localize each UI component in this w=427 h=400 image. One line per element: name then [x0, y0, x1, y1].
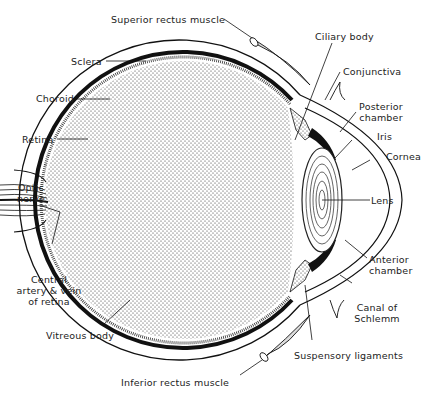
- label-optic-nerve: Optic nerve: [14, 182, 48, 204]
- label-canal-of-schlemm: Canal of Schlemm: [352, 302, 402, 324]
- label-anterior-chamber-line2: chamber: [369, 265, 413, 276]
- label-vitreous-body: Vitreous body: [46, 330, 114, 341]
- label-anterior-chamber-line1: Anterior: [369, 254, 413, 265]
- label-lens: Lens: [371, 195, 394, 206]
- label-canal-of-schlemm-line2: Schlemm: [352, 313, 402, 324]
- label-suspensory-ligaments: Suspensory ligaments: [294, 350, 403, 361]
- label-central-artery-line1: Central: [14, 274, 84, 285]
- label-ciliary-body: Ciliary body: [315, 31, 374, 42]
- label-central-artery-line3: of retina: [14, 296, 84, 307]
- label-central-artery-line2: artery & vein: [14, 285, 84, 296]
- label-choroid: Choroid: [36, 93, 74, 104]
- label-posterior-chamber-line2: chamber: [356, 112, 406, 123]
- label-cornea: Cornea: [386, 151, 421, 162]
- label-conjunctiva: Conjunctiva: [343, 66, 401, 77]
- eye-diagram: Superior rectus muscle Sclera Choroid Re…: [0, 0, 427, 400]
- label-sclera: Sclera: [71, 56, 102, 67]
- label-posterior-chamber-line1: Posterior: [356, 101, 406, 112]
- label-iris: Iris: [377, 131, 392, 142]
- label-anterior-chamber: Anterior chamber: [369, 254, 413, 276]
- label-superior-rectus-muscle: Superior rectus muscle: [111, 14, 225, 25]
- label-central-artery-vein: Central artery & vein of retina: [14, 274, 84, 307]
- label-optic-nerve-line1: Optic: [14, 182, 48, 193]
- label-retina: Retina: [22, 134, 53, 145]
- label-optic-nerve-line2: nerve: [14, 193, 48, 204]
- label-inferior-rectus-muscle: Inferior rectus muscle: [121, 377, 229, 388]
- label-posterior-chamber: Posterior chamber: [356, 101, 406, 123]
- label-canal-of-schlemm-line1: Canal of: [352, 302, 402, 313]
